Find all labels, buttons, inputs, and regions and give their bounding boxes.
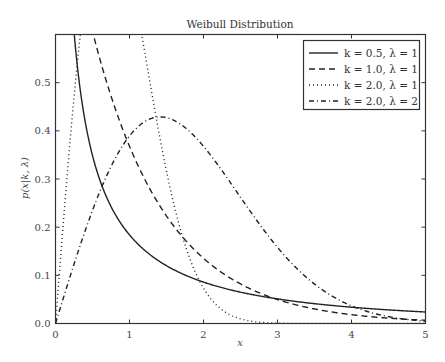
- x-tick-label: 0: [52, 329, 58, 340]
- weibull-chart: Weibull Distribution 012345 0.00.10.20.3…: [0, 0, 445, 362]
- y-axis-label: p(x|k, λ): [19, 157, 31, 199]
- y-tick-label: 0.0: [35, 318, 51, 329]
- y-tick-label: 0.1: [35, 270, 51, 281]
- x-tick-label: 3: [274, 329, 280, 340]
- x-tick-label: 4: [348, 329, 354, 340]
- legend-label: k = 0.5, λ = 1: [344, 47, 418, 59]
- x-tick-label: 1: [126, 329, 132, 340]
- y-axis-ticks: 0.00.10.20.30.40.5: [35, 77, 426, 329]
- y-tick-label: 0.5: [35, 77, 51, 88]
- y-tick-label: 0.2: [35, 222, 51, 233]
- y-tick-label: 0.3: [35, 174, 51, 185]
- x-axis-label: x: [237, 337, 243, 348]
- x-tick-label: 5: [422, 329, 428, 340]
- legend-label: k = 1.0, λ = 1: [344, 63, 418, 75]
- chart-title: Weibull Distribution: [187, 18, 294, 30]
- legend-label: k = 2.0, λ = 1: [344, 79, 418, 91]
- y-tick-label: 0.4: [35, 125, 51, 136]
- legend-label: k = 2.0, λ = 2: [344, 95, 418, 107]
- x-tick-label: 2: [200, 329, 206, 340]
- legend: k = 0.5, λ = 1k = 1.0, λ = 1k = 2.0, λ =…: [304, 41, 420, 110]
